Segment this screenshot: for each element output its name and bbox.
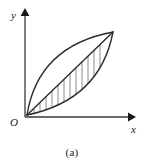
origin-label: O: [10, 116, 18, 128]
y-axis-arrowhead: [21, 8, 30, 16]
figure-caption: (a): [0, 146, 144, 158]
math-figure: O x y: [0, 0, 144, 140]
chord-line: [27, 32, 113, 115]
lens-region-group: [27, 32, 113, 115]
x-axis-label: x: [130, 123, 136, 135]
y-axis-label: y: [10, 9, 16, 21]
hatch-group: [34, 0, 100, 140]
figure-container: O x y (a): [0, 0, 144, 168]
x-axis-arrowhead: [128, 113, 136, 122]
